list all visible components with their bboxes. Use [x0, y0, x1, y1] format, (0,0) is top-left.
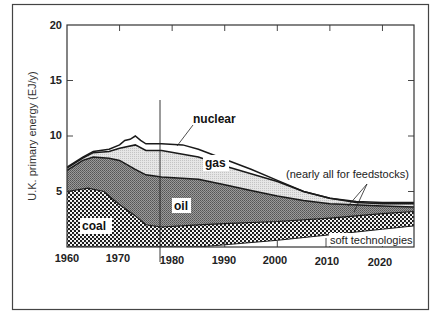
label-nuclear: nuclear [193, 112, 236, 126]
label-coal: coal [82, 219, 106, 233]
label-oil: oil [174, 199, 188, 213]
x-tick-2000: 2000 [263, 254, 287, 266]
y-tick-15: 15 [50, 74, 62, 86]
y-axis-title: U.K. primary energy (EJ/y) [26, 71, 38, 201]
label-gas-box: gas [203, 155, 229, 171]
label-soft-box: soft technologies [329, 233, 413, 246]
x-tick-1960: 1960 [55, 252, 79, 264]
energy-chart: 20 15 10 5 1960 1970 1980 1990 2000 2010… [0, 0, 439, 328]
x-tick-1970: 1970 [106, 252, 130, 264]
y-tick-10: 10 [50, 129, 62, 141]
x-tick-1990: 1990 [212, 254, 236, 266]
nuclear-pointer [177, 125, 193, 146]
label-feedstocks: (nearly all for feedstocks) [286, 168, 409, 180]
x-tick-1980: 1980 [160, 254, 184, 266]
stacked-areas [67, 136, 414, 247]
label-oil-box: oil [172, 198, 191, 213]
x-tick-2010: 2010 [315, 255, 339, 267]
label-soft-technologies: soft technologies [330, 234, 413, 246]
y-tick-20: 20 [50, 19, 62, 31]
x-tick-2020: 2020 [368, 256, 392, 268]
label-gas: gas [205, 156, 226, 170]
label-coal-box: coal [80, 218, 112, 234]
y-tick-5: 5 [56, 185, 62, 197]
